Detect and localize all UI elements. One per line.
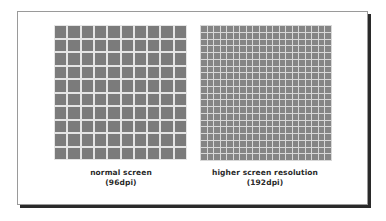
pixel-cell [306,107,312,113]
pixel-cell [260,46,266,52]
pixel-cell [108,121,119,133]
pixel-cell [293,53,299,59]
pixel-cell [240,114,246,120]
pixel-cell [312,60,318,66]
pixel-cell [253,67,259,73]
pixel-cell [293,148,299,154]
pixel-cell [286,40,292,46]
pixel-cell [175,107,186,119]
pixel-cell [247,127,253,133]
pixel-cell [299,121,305,127]
pixel-cell [227,60,233,66]
pixel-cell [267,33,273,39]
pixel-cell [221,134,227,140]
pixel-cell [208,148,214,154]
pixel-cell [161,26,172,38]
pixel-cell [319,60,325,66]
pixel-cell [227,121,233,127]
pixel-cell [247,134,253,140]
pixel-cell [280,154,286,160]
pixel-cell [234,46,240,52]
pixel-cell [214,60,220,66]
pixel-cell [280,148,286,154]
pixel-cell [280,121,286,127]
pixel-cell [286,141,292,147]
pixel-cell [247,141,253,147]
pixel-cell [95,121,106,133]
pixel-cell [221,100,227,106]
pixel-cell [240,141,246,147]
pixel-cell [227,46,233,52]
pixel-cell [312,73,318,79]
pixel-cell [299,141,305,147]
pixel-cell [273,87,279,93]
pixel-cell [267,107,273,113]
pixel-cell [227,114,233,120]
pixel-cell [253,114,259,120]
pixel-cell [299,127,305,133]
pixel-cell [286,67,292,73]
pixel-cell [306,73,312,79]
pixel-cell [280,127,286,133]
pixel-cell [267,114,273,120]
pixel-cell [240,154,246,160]
pixel-cell [240,73,246,79]
pixel-cell [175,121,186,133]
pixel-cell [286,33,292,39]
pixel-cell [267,154,273,160]
pixel-cell [260,67,266,73]
pixel-cell [306,148,312,154]
pixel-cell [240,107,246,113]
pixel-cell [293,127,299,133]
pixel-cell [208,67,214,73]
pixel-cell [267,53,273,59]
pixel-cell [148,67,159,79]
high-resolution-dpi: (192dpi) [205,178,325,188]
pixel-cell [286,100,292,106]
pixel-cell [293,67,299,73]
pixel-cell [273,94,279,100]
pixel-cell [208,87,214,93]
pixel-cell [201,73,207,79]
pixel-cell [293,154,299,160]
pixel-cell [201,154,207,160]
pixel-cell [95,26,106,38]
pixel-cell [306,40,312,46]
pixel-cell [273,127,279,133]
pixel-cell [247,53,253,59]
pixel-cell [280,40,286,46]
pixel-cell [175,67,186,79]
pixel-cell [280,33,286,39]
pixel-cell [55,80,66,92]
pixel-cell [122,107,133,119]
pixel-cell [253,141,259,147]
pixel-cell [273,40,279,46]
pixel-cell [253,46,259,52]
pixel-cell [55,26,66,38]
pixel-cell [135,121,146,133]
pixel-cell [227,107,233,113]
pixel-cell [161,67,172,79]
pixel-cell [273,26,279,32]
pixel-cell [325,127,331,133]
pixel-cell [214,33,220,39]
pixel-cell [319,46,325,52]
pixel-cell [260,121,266,127]
pixel-cell [135,107,146,119]
pixel-cell [95,94,106,106]
pixel-cell [201,127,207,133]
pixel-cell [293,141,299,147]
pixel-cell [108,94,119,106]
pixel-cell [325,114,331,120]
pixel-cell [201,134,207,140]
pixel-cell [240,60,246,66]
pixel-cell [247,100,253,106]
pixel-cell [253,134,259,140]
pixel-cell [161,134,172,146]
pixel-cell [148,53,159,65]
pixel-cell [273,154,279,160]
pixel-cell [214,87,220,93]
pixel-cell [214,46,220,52]
pixel-cell [312,87,318,93]
pixel-cell [325,107,331,113]
